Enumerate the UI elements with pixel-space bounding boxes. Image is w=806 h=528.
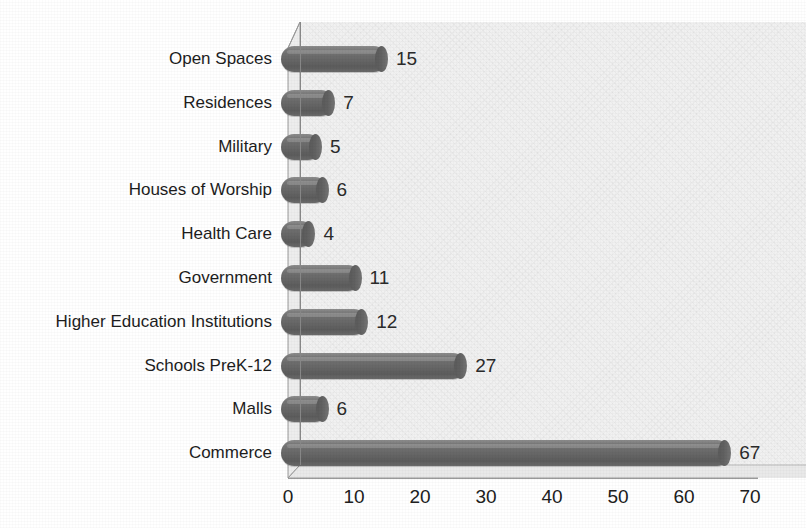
bar-row: Military5 [0,134,806,178]
value-axis-line [288,478,758,479]
bar-value-label: 5 [330,134,341,160]
bar-highlight [287,444,722,448]
bar-end-cap [718,440,731,466]
category-label: Houses of Worship [0,177,272,203]
bar-highlight [287,269,353,273]
bar-row: Houses of Worship6 [0,177,806,221]
bar-end-cap [322,90,335,116]
category-label: Military [0,134,272,160]
bar-end-cap [375,46,388,72]
bar-row: Government11 [0,265,806,309]
bar-higher-education-institutions[interactable] [281,309,367,335]
bar-value-label: 15 [396,46,417,72]
bar-value-label: 67 [739,440,760,466]
category-label: Malls [0,396,272,422]
bar-highlight [287,313,359,317]
category-label: Commerce [0,440,272,466]
bar-government[interactable] [281,265,361,291]
bar-houses-of-worship[interactable] [281,177,328,203]
bar-highlight [287,400,320,404]
bar-value-label: 6 [337,177,348,203]
category-axis-line [300,22,301,465]
bar-value-label: 7 [343,90,354,116]
bar-end-cap [454,353,467,379]
bar-commerce[interactable] [281,440,730,466]
bar-open-spaces[interactable] [281,46,387,72]
bars-layer: Open Spaces15Residences7Military5Houses … [0,0,806,528]
bar-end-cap [309,134,322,160]
bar-value-label: 12 [376,309,397,335]
category-label: Schools PreK-12 [0,353,272,379]
bar-end-cap [349,265,362,291]
bar-residences[interactable] [281,90,334,116]
category-label: Government [0,265,272,291]
category-label: Health Care [0,221,272,247]
bar-row: Malls6 [0,396,806,440]
bar-highlight [287,357,458,361]
bar-end-cap [355,309,368,335]
bar-end-cap [302,221,315,247]
category-label: Residences [0,90,272,116]
bar-row: Residences7 [0,90,806,134]
bar-row: Higher Education Institutions12 [0,309,806,353]
bar-chart: Open Spaces15Residences7Military5Houses … [0,0,806,528]
bar-health-care[interactable] [281,221,314,247]
bar-value-label: 4 [323,221,334,247]
bar-highlight [287,181,320,185]
bar-row: Schools PreK-1227 [0,353,806,397]
category-label: Higher Education Institutions [0,309,272,335]
bar-end-cap [316,396,329,422]
bar-value-label: 11 [370,265,390,291]
bar-value-label: 27 [475,353,496,379]
bar-highlight [287,94,326,98]
category-label: Open Spaces [0,46,272,72]
bar-military[interactable] [281,134,321,160]
bar-value-label: 6 [337,396,348,422]
bar-end-cap [316,177,329,203]
bar-malls[interactable] [281,396,328,422]
bar-schools-prek-12[interactable] [281,353,466,379]
bar-row: Health Care4 [0,221,806,265]
bar-row: Open Spaces15 [0,46,806,90]
